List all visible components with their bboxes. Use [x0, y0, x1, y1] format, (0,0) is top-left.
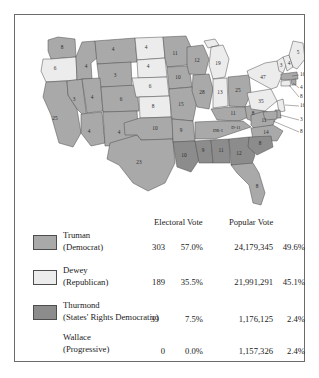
state-label-NH: 4	[288, 60, 291, 66]
leader-line-NJ	[285, 105, 299, 106]
leader-line-DE	[280, 115, 299, 120]
state-label-MI: 19	[215, 60, 221, 66]
column-header-popular-vote: Popular Vote	[229, 217, 273, 227]
callout-label-MD: 8	[300, 128, 303, 134]
color-swatch-truman	[33, 235, 57, 250]
callout-label-CT: 8	[300, 93, 303, 99]
state-label-NC: 14	[263, 129, 269, 135]
state-label-TN-dixiecrat: DR-1	[213, 128, 224, 133]
state-AR	[172, 119, 195, 142]
popular-votes-truman: 24,179,345	[211, 242, 273, 252]
state-label-CA: 25	[52, 115, 58, 121]
state-label-TN-democrat: D-11	[231, 125, 241, 130]
candidate-label-truman: Truman (Democrat)	[63, 230, 103, 253]
state-label-FL: 8	[256, 183, 259, 189]
state-OR	[41, 57, 77, 82]
state-MT	[95, 38, 137, 64]
state-label-OK: 10	[152, 125, 158, 131]
state-label-SD: 4	[147, 63, 150, 69]
state-MA	[281, 72, 298, 80]
state-label-TX: 23	[136, 159, 142, 165]
candidate-party-truman: (Democrat)	[63, 242, 103, 254]
popular-votes-dewey: 21,991,291	[211, 277, 273, 287]
state-label-KY: 11	[230, 110, 235, 116]
state-label-MO: 15	[178, 101, 184, 107]
state-label-KS: 8	[152, 103, 155, 109]
state-ID	[76, 41, 97, 80]
electoral-pct-truman: 57.0%	[171, 242, 203, 252]
state-label-GA: 12	[236, 150, 242, 156]
state-label-WY: 3	[114, 72, 117, 78]
popular-votes-wallace: 1,157,326	[211, 346, 273, 356]
state-label-ME: 5	[297, 49, 300, 55]
state-AZ	[81, 112, 105, 146]
state-KS	[139, 96, 171, 118]
popular-pct-truman: 49.6%	[277, 242, 305, 252]
state-label-ID: 4	[85, 63, 88, 69]
candidate-name-thurmond: Thurmond	[63, 300, 159, 312]
election-map-figure: .s{stroke:#4d4d4d;stroke-width:0.5;} .tr…	[14, 14, 305, 362]
callout-vote-labels: 16 4 8 16 3 8	[300, 71, 304, 134]
popular-votes-thurmond: 1,176,125	[211, 314, 273, 324]
map-svg: .s{stroke:#4d4d4d;stroke-width:0.5;} .tr…	[15, 15, 304, 213]
legend-row-truman: Truman (Democrat) 303 57.0% 24,179,345 4…	[15, 233, 304, 263]
results-legend: Electoral Vote Popular Vote Truman (Demo…	[15, 211, 304, 361]
us-electoral-map: .s{stroke:#4d4d4d;stroke-width:0.5;} .tr…	[15, 15, 304, 213]
candidate-name-dewey: Dewey	[63, 265, 108, 277]
legend-row-dewey: Dewey (Republican) 189 35.5% 21,991,291 …	[15, 268, 304, 298]
color-swatch-dewey	[33, 270, 57, 285]
electoral-votes-wallace: 0	[143, 346, 165, 356]
electoral-votes-thurmond: 39	[137, 314, 159, 324]
candidate-party-wallace: (Progressive)	[63, 344, 109, 356]
state-label-NM: 4	[118, 129, 121, 135]
state-label-ND: 4	[145, 44, 148, 50]
electoral-pct-dewey: 35.5%	[171, 277, 203, 287]
state-RI	[291, 79, 296, 85]
candidate-party-dewey: (Republican)	[63, 277, 108, 289]
callout-label-MA: 16	[300, 71, 304, 77]
state-label-CO: 6	[120, 96, 123, 102]
state-label-IL: 28	[199, 89, 205, 95]
color-swatch-thurmond	[33, 305, 57, 320]
state-label-WA: 8	[61, 44, 64, 50]
electoral-votes-dewey: 189	[143, 277, 165, 287]
state-FL	[231, 163, 265, 205]
legend-row-wallace: Wallace (Progressive) 0 0.0% 1,157,326 2…	[15, 335, 304, 365]
state-label-VT: 3	[280, 62, 283, 68]
state-label-MT: 4	[112, 46, 115, 52]
state-label-AR: 9	[180, 127, 183, 133]
electoral-votes-truman: 303	[143, 242, 165, 252]
state-label-VA: 11	[261, 117, 266, 123]
candidate-label-wallace: Wallace (Progressive)	[63, 332, 109, 355]
callout-label-DE: 3	[300, 116, 303, 122]
callout-label-RI: 4	[300, 84, 303, 90]
state-label-UT: 4	[91, 94, 94, 100]
electoral-pct-thurmond: 7.5%	[171, 314, 203, 324]
state-label-AZ: 4	[88, 128, 91, 134]
legend-row-thurmond: Thurmond (States' Rights Democratic) 39 …	[15, 303, 304, 333]
state-label-WV: 8	[252, 110, 255, 116]
popular-pct-thurmond: 2.4%	[277, 314, 305, 324]
state-label-OH: 25	[235, 87, 241, 93]
state-label-MS: 9	[202, 147, 205, 153]
state-label-OR: 6	[54, 65, 57, 71]
state-label-NE: 6	[149, 83, 152, 89]
state-label-NV: 3	[73, 96, 76, 102]
state-label-WI: 12	[194, 57, 200, 63]
popular-pct-wallace: 2.4%	[277, 346, 305, 356]
candidate-name-wallace: Wallace	[63, 332, 109, 344]
state-CT	[281, 80, 291, 86]
state-label-NY: 47	[260, 74, 266, 80]
state-label-IN: 13	[217, 89, 223, 95]
state-label-MN: 11	[172, 50, 177, 56]
popular-pct-dewey: 45.1%	[277, 277, 305, 287]
state-label-SC: 8	[259, 140, 262, 146]
state-SD	[137, 58, 167, 78]
legend-column-headers: Electoral Vote Popular Vote	[15, 217, 304, 231]
candidate-label-dewey: Dewey (Republican)	[63, 265, 108, 288]
candidate-name-truman: Truman	[63, 230, 103, 242]
state-label-LA: 10	[181, 152, 187, 158]
state-label-IA: 10	[175, 74, 181, 80]
electoral-pct-wallace: 0.0%	[171, 346, 203, 356]
column-header-electoral-vote: Electoral Vote	[154, 217, 203, 227]
